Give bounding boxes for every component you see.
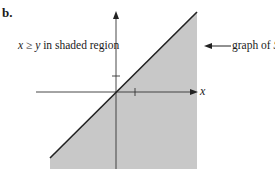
y-axis-arrow-icon [113,11,119,19]
inequality-graph [0,0,275,172]
shaded-region [50,12,197,169]
pointer-arrow-icon [204,43,212,49]
